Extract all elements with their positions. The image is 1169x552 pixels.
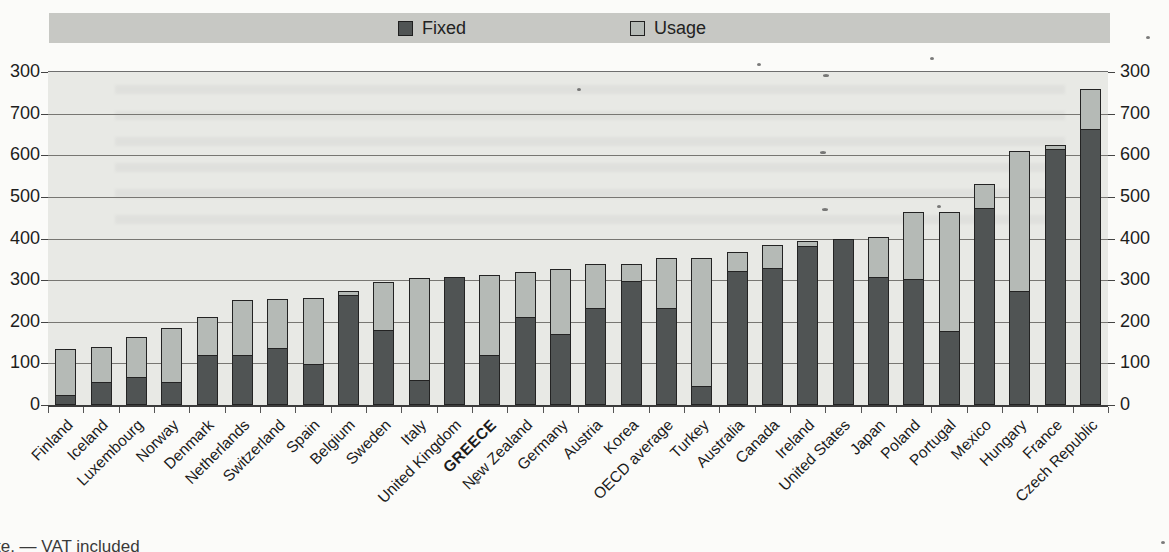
bar-segment-usage xyxy=(479,275,500,355)
bar-segment-usage xyxy=(303,298,324,364)
y-tick-right xyxy=(1108,405,1115,406)
bar-segment-usage xyxy=(939,212,960,331)
bar-segment-usage xyxy=(232,300,253,355)
bar-segment-fixed xyxy=(126,377,147,405)
y-axis-label-left: 300 xyxy=(0,270,40,288)
y-axis-label-left: 300 xyxy=(0,62,40,80)
bar-segment-fixed xyxy=(939,331,960,405)
y-axis-label-left: 200 xyxy=(0,312,40,330)
plot-area xyxy=(48,71,1108,407)
bar-segment-fixed xyxy=(621,281,642,405)
y-axis-label-left: 600 xyxy=(0,145,40,163)
bar-portugal xyxy=(939,212,960,405)
scan-speck xyxy=(937,205,941,208)
y-tick-right xyxy=(1108,363,1115,364)
y-tick-right xyxy=(1108,155,1115,156)
bar-united-states xyxy=(833,239,854,405)
bar-segment-usage xyxy=(409,278,430,380)
y-tick-right xyxy=(1108,239,1115,240)
bar-segment-usage xyxy=(1009,151,1030,291)
y-tick-right xyxy=(1108,72,1115,73)
bar-germany xyxy=(550,269,571,405)
y-axis-label-right: 300 xyxy=(1120,62,1169,80)
bar-segment-usage xyxy=(621,264,642,281)
bar-segment-fixed xyxy=(338,295,359,405)
bar-greece xyxy=(479,275,500,405)
bar-norway xyxy=(161,328,182,405)
y-tick-left xyxy=(41,155,48,156)
bar-segment-usage xyxy=(585,264,606,308)
y-tick-left xyxy=(41,363,48,364)
legend-label-usage: Usage xyxy=(654,18,706,39)
y-axis-label-right: 100 xyxy=(1120,353,1169,371)
bar-segment-usage xyxy=(1080,89,1101,129)
bar-segment-fixed xyxy=(267,348,288,405)
y-tick-right xyxy=(1108,322,1115,323)
bar-segment-fixed xyxy=(303,364,324,405)
bar-denmark xyxy=(197,317,218,405)
scan-speck xyxy=(476,481,480,484)
y-axis-label-right: 300 xyxy=(1120,270,1169,288)
bar-mexico xyxy=(974,184,995,405)
bar-segment-fixed xyxy=(1045,149,1066,405)
bar-segment-fixed xyxy=(1009,291,1030,405)
y-tick-left xyxy=(41,280,48,281)
bar-segment-fixed xyxy=(833,239,854,405)
bar-segment-fixed xyxy=(161,382,182,405)
bar-segment-fixed xyxy=(1080,129,1101,405)
y-axis-label-left: 400 xyxy=(0,229,40,247)
bar-segment-usage xyxy=(868,237,889,277)
bar-segment-usage xyxy=(373,282,394,330)
y-axis-label-left: 0 xyxy=(0,395,40,413)
gridline-600 xyxy=(48,155,1108,156)
bar-segment-fixed xyxy=(691,386,712,405)
y-axis-label-right: 400 xyxy=(1120,229,1169,247)
y-axis-label-left: 700 xyxy=(0,104,40,122)
bar-segment-usage xyxy=(91,347,112,382)
y-tick-left xyxy=(41,114,48,115)
bar-segment-usage xyxy=(126,337,147,377)
bar-segment-fixed xyxy=(373,330,394,405)
bar-france xyxy=(1045,145,1066,405)
bar-segment-fixed xyxy=(797,246,818,405)
bar-czech-republic xyxy=(1080,89,1101,405)
scan-speck xyxy=(757,63,761,66)
bar-sweden xyxy=(373,282,394,405)
bar-korea xyxy=(621,264,642,405)
bar-ireland xyxy=(797,241,818,405)
y-tick-left xyxy=(41,405,48,406)
y-axis-label-left: 100 xyxy=(0,353,40,371)
bar-united-kingdom xyxy=(444,277,465,405)
bar-segment-fixed xyxy=(409,380,430,405)
y-tick-right xyxy=(1108,114,1115,115)
scanned-chart-page: { "legend": { "items": [ { "label": "Fix… xyxy=(0,0,1169,552)
bar-canada xyxy=(762,245,783,405)
y-tick-right xyxy=(1108,197,1115,198)
bar-segment-usage xyxy=(691,258,712,386)
y-tick-left xyxy=(41,197,48,198)
y-tick-right xyxy=(1108,280,1115,281)
y-axis-label-right: 200 xyxy=(1120,312,1169,330)
bar-segment-fixed xyxy=(91,382,112,405)
bar-belgium xyxy=(338,291,359,405)
bar-segment-usage xyxy=(727,252,748,271)
legend-label-fixed: Fixed xyxy=(422,18,466,39)
bar-turkey xyxy=(691,258,712,405)
y-tick-left xyxy=(41,239,48,240)
usage-swatch-icon xyxy=(630,21,645,36)
y-axis-label-right: 0 xyxy=(1120,395,1169,413)
gridline-700 xyxy=(48,114,1108,115)
y-axis-label-right: 700 xyxy=(1120,104,1169,122)
y-tick-left xyxy=(41,72,48,73)
bar-segment-usage xyxy=(197,317,218,355)
bar-iceland xyxy=(91,347,112,405)
bar-spain xyxy=(303,298,324,405)
bar-segment-fixed xyxy=(444,277,465,405)
bar-netherlands xyxy=(232,300,253,405)
bar-segment-usage xyxy=(550,269,571,334)
bar-segment-fixed xyxy=(550,334,571,405)
legend-item-fixed: Fixed xyxy=(398,13,466,43)
bar-segment-fixed xyxy=(903,279,924,405)
bar-segment-fixed xyxy=(197,355,218,405)
bar-segment-usage xyxy=(267,299,288,348)
